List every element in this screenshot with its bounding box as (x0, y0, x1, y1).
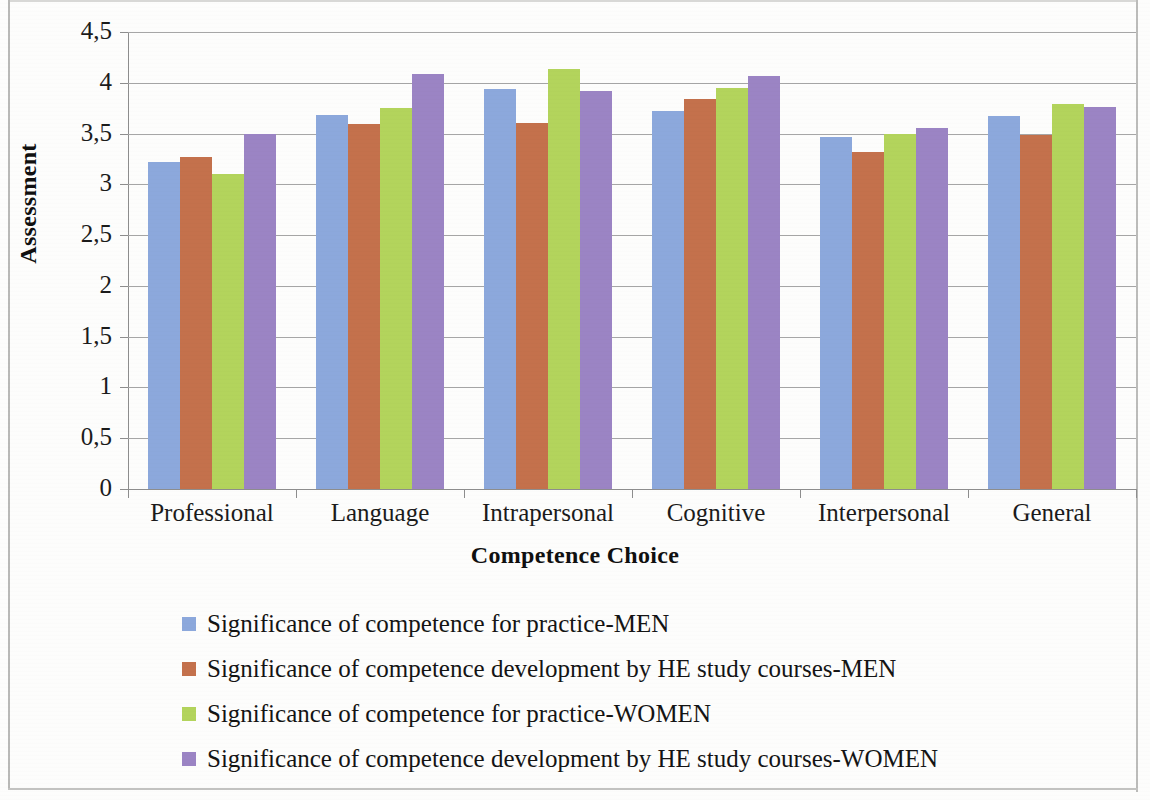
y-axis-tick-label: 4 (0, 68, 112, 96)
legend-item-label: Significance of competence development b… (207, 746, 938, 771)
y-axis-tick-label: 0,5 (0, 423, 112, 451)
legend-item-label: Significance of competence for practice-… (207, 701, 711, 726)
gridline (128, 32, 1136, 33)
plot-area (128, 32, 1136, 489)
bar (180, 157, 212, 489)
bar (716, 88, 748, 489)
bar (516, 123, 548, 489)
gridline (128, 134, 1136, 135)
y-axis-tick-mark (120, 286, 128, 287)
y-axis-tick-label: 3 (0, 169, 112, 197)
bar (244, 134, 276, 489)
bar (652, 111, 684, 489)
x-axis-category-label: Professional (128, 499, 296, 527)
gridline (128, 337, 1136, 338)
bar (1020, 135, 1052, 489)
x-axis-title: Competence Choice (0, 542, 1150, 569)
y-axis-tick-mark (120, 489, 128, 490)
y-axis-tick-label: 0 (0, 474, 112, 502)
gridline (128, 387, 1136, 388)
y-axis-tick-label: 2 (0, 271, 112, 299)
x-axis-separator (296, 489, 297, 498)
gridline (128, 438, 1136, 439)
x-axis-separator (632, 489, 633, 498)
bar (820, 137, 852, 489)
x-axis-separator (800, 489, 801, 498)
legend-swatch-icon (182, 752, 196, 766)
legend-item: Significance of competence for practice-… (182, 691, 1082, 736)
bar (580, 91, 612, 489)
y-axis-tick-mark (120, 184, 128, 185)
bar (916, 128, 948, 489)
bar (548, 69, 580, 489)
y-axis-tick-mark (120, 387, 128, 388)
legend-item: Significance of competence development b… (182, 736, 1082, 781)
legend-item-label: Significance of competence development b… (207, 656, 896, 681)
bar (380, 108, 412, 489)
legend-swatch-icon (182, 617, 196, 631)
y-axis-tick-label: 1 (0, 372, 112, 400)
y-axis-tick-mark (120, 235, 128, 236)
gridline (128, 83, 1136, 84)
legend-item: Significance of competence for practice-… (182, 601, 1082, 646)
gridline (128, 184, 1136, 185)
y-axis-tick-mark (120, 438, 128, 439)
bar (316, 115, 348, 489)
legend-item: Significance of competence development b… (182, 646, 1082, 691)
page-frame-bottom (8, 788, 1138, 790)
bar (1052, 104, 1084, 489)
y-axis-tick-label: 2,5 (0, 220, 112, 248)
bar (1084, 107, 1116, 489)
y-axis-tick-label: 1,5 (0, 322, 112, 350)
y-axis-tick-mark (120, 337, 128, 338)
y-axis-tick-mark (120, 32, 128, 33)
legend-swatch-icon (182, 707, 196, 721)
legend-swatch-icon (182, 662, 196, 676)
gridline (128, 235, 1136, 236)
x-axis-separator (1136, 489, 1137, 498)
bar (348, 124, 380, 489)
bar (884, 134, 916, 489)
x-axis-category-label: Cognitive (632, 499, 800, 527)
x-axis-separator (464, 489, 465, 498)
y-axis-tick-label: 3,5 (0, 119, 112, 147)
x-axis-category-label: Language (296, 499, 464, 527)
bar (212, 174, 244, 489)
bar (412, 74, 444, 489)
x-axis-category-label: General (968, 499, 1136, 527)
gridline (128, 286, 1136, 287)
x-axis-separator (128, 489, 129, 498)
bar (748, 76, 780, 489)
chart-legend: Significance of competence for practice-… (182, 601, 1082, 781)
y-axis-tick-mark (120, 134, 128, 135)
legend-item-label: Significance of competence for practice-… (207, 611, 669, 636)
y-axis-tick-label: 4,5 (0, 17, 112, 45)
bar (484, 89, 516, 489)
page-frame-top (8, 0, 1136, 2)
bar (852, 152, 884, 489)
bar (988, 116, 1020, 489)
x-axis-category-label: Intrapersonal (464, 499, 632, 527)
y-axis-tick-mark (120, 83, 128, 84)
chart-figure: Assessment 00,511,522,533,544,5 Professi… (0, 0, 1150, 800)
x-axis-separator (968, 489, 969, 498)
bar (148, 162, 180, 489)
page-frame-right (1136, 0, 1138, 792)
bar (684, 99, 716, 489)
x-axis-category-label: Interpersonal (800, 499, 968, 527)
